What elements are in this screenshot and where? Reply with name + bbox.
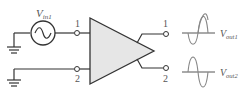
input-terminal-1 <box>75 31 80 36</box>
source-label: Vin1 <box>36 7 52 21</box>
differential-amplifier-diagram: Vin1 1 2 1 2 Vout1 Vout2 <box>0 0 242 99</box>
ground-icon-bottom <box>7 69 74 86</box>
amplifier-triangle <box>90 18 154 84</box>
input-terminal-2 <box>75 67 80 72</box>
ground-icon-top <box>7 33 30 53</box>
input-pin-1-label: 1 <box>75 18 80 29</box>
input-pin-2-label: 2 <box>75 73 80 84</box>
output-waveform-2 <box>182 57 215 87</box>
output-label-2: Vout2 <box>220 67 238 79</box>
output-pin-1-label: 1 <box>163 18 168 29</box>
output-pin-2-label: 2 <box>163 73 168 84</box>
output-terminal-1 <box>164 32 169 37</box>
output-waveform-1 <box>182 14 215 44</box>
ac-source-icon <box>31 21 55 45</box>
output-label-1: Vout1 <box>220 28 238 40</box>
output-terminal-2 <box>164 66 169 71</box>
